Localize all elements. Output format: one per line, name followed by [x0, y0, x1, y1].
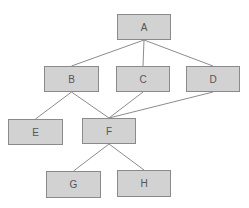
edge-b-f	[72, 92, 110, 118]
edge-a-d	[144, 40, 213, 66]
edge-a-c	[143, 40, 144, 66]
edge-f-g	[74, 144, 110, 171]
node-g: G	[46, 171, 101, 198]
node-c: C	[116, 66, 170, 92]
node-d: D	[186, 66, 240, 92]
edge-f-h	[109, 144, 144, 170]
edge-b-e	[36, 92, 72, 119]
node-b: B	[44, 66, 99, 92]
tree-diagram: A B C D E F G H	[0, 0, 249, 208]
edge-a-b	[72, 40, 145, 66]
node-a: A	[117, 14, 171, 40]
edge-d-f	[109, 92, 213, 118]
node-h: H	[117, 170, 171, 197]
node-e: E	[8, 119, 63, 145]
node-f: F	[82, 118, 136, 144]
